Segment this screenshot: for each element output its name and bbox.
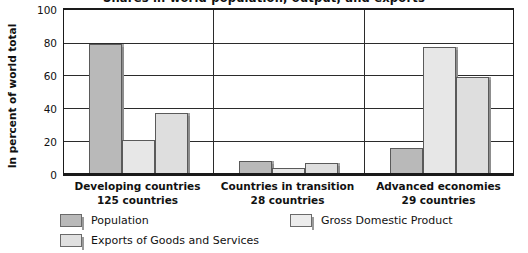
chart-title-text: Shares in world population, output, and … — [103, 0, 425, 5]
category-sub-2: 28 countries — [212, 194, 363, 208]
legend-swatch-gdp-icon — [290, 214, 312, 227]
legend-item-gdp: Gross Domestic Product — [290, 214, 453, 227]
legend-swatch-exports-icon — [60, 234, 82, 247]
bar-gross-domestic-product-developing-countries — [122, 140, 155, 173]
bar-exports-of-goods-and-services-advanced-economies — [456, 77, 489, 173]
bar-group-developing-countries — [64, 10, 213, 173]
legend-label-population: Population — [91, 214, 149, 227]
bar-gross-domestic-product-advanced-economies — [423, 47, 456, 173]
bar-slot — [122, 10, 155, 173]
category-label-countries-in-transition: Countries in transition 28 countries — [212, 180, 363, 207]
category-name-3: Advanced economies — [363, 180, 514, 194]
y-tick-0: 0 — [50, 169, 57, 181]
y-axis-tick-labels: 100 80 60 40 20 0 — [22, 8, 62, 176]
bar-group-advanced-economies — [364, 10, 515, 173]
bar-slot — [423, 10, 456, 173]
x-axis-category-labels: Developing countries 125 countries Count… — [63, 180, 514, 210]
bar-slot — [272, 10, 305, 173]
bar-slot — [155, 10, 188, 173]
bar-exports-of-goods-and-services-developing-countries — [155, 113, 188, 173]
bar-exports-of-goods-and-services-countries-in-transition — [305, 163, 338, 173]
y-tick-20: 20 — [44, 136, 57, 148]
y-tick-100: 100 — [37, 4, 57, 16]
plot-inner — [64, 10, 513, 173]
y-tick-40: 40 — [44, 103, 57, 115]
chart-legend: Population Exports of Goods and Services… — [60, 214, 520, 252]
legend-label-exports: Exports of Goods and Services — [91, 234, 259, 247]
legend-swatch-population-icon — [60, 214, 82, 227]
category-sub-1: 125 countries — [63, 194, 212, 208]
y-tick-80: 80 — [44, 37, 57, 49]
y-axis-title: In percent of world total — [0, 8, 24, 183]
bar-population-countries-in-transition — [239, 161, 272, 173]
y-axis-title-text: In percent of world total — [6, 23, 18, 168]
bar-gross-domestic-product-countries-in-transition — [272, 168, 305, 173]
category-name-1: Developing countries — [63, 180, 212, 194]
category-label-advanced-economies: Advanced economies 29 countries — [363, 180, 514, 207]
legend-label-gdp: Gross Domestic Product — [321, 214, 453, 227]
bar-slot — [305, 10, 338, 173]
category-sub-3: 29 countries — [363, 194, 514, 208]
bar-slot — [456, 10, 489, 173]
bar-group-countries-in-transition — [213, 10, 364, 173]
legend-item-population: Population — [60, 214, 149, 227]
chart-title: Shares in world population, output, and … — [0, 0, 528, 7]
bar-slot — [390, 10, 423, 173]
category-name-2: Countries in transition — [212, 180, 363, 194]
plot-area — [63, 8, 514, 176]
bar-population-advanced-economies — [390, 148, 423, 173]
category-label-developing-countries: Developing countries 125 countries — [63, 180, 212, 207]
bar-slot — [89, 10, 122, 173]
legend-item-exports: Exports of Goods and Services — [60, 234, 259, 247]
bar-slot — [239, 10, 272, 173]
y-tick-60: 60 — [44, 70, 57, 82]
bar-chart: Shares in world population, output, and … — [0, 0, 528, 253]
bar-population-developing-countries — [89, 44, 122, 173]
